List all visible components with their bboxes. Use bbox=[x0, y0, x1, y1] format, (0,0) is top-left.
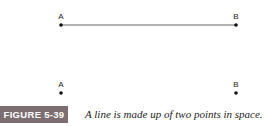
point-a-top bbox=[59, 23, 63, 27]
figure-caption-row: FIGURE 5-39 A line is made up of two poi… bbox=[0, 106, 272, 124]
points-diagram: A B A B bbox=[0, 0, 272, 106]
point-b-bottom bbox=[234, 91, 238, 95]
label-b-top: B bbox=[233, 12, 238, 21]
label-a-top: A bbox=[58, 12, 64, 21]
figure-label: FIGURE 5-39 bbox=[0, 106, 68, 123]
point-a-bottom bbox=[59, 91, 63, 95]
point-b-top bbox=[234, 23, 238, 27]
figure-caption: A line is made up of two points in space… bbox=[85, 106, 263, 123]
label-b-bottom: B bbox=[233, 80, 238, 89]
label-a-bottom: A bbox=[58, 80, 64, 89]
